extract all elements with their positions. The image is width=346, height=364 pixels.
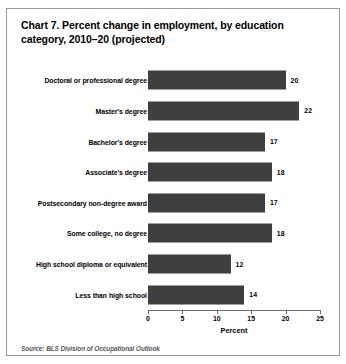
bar-value-label: 17 (270, 138, 278, 145)
plot-area: Doctoral or professional degree20Master'… (7, 65, 341, 310)
x-axis-tick-label: 0 (146, 315, 150, 322)
bar-track: 14 (148, 285, 320, 304)
x-axis-title: Percent (148, 326, 320, 335)
x-axis-tick (217, 310, 218, 314)
bar-track: 18 (148, 224, 320, 243)
bar[interactable] (148, 132, 265, 151)
x-axis-tick-label: 15 (247, 315, 255, 322)
bar-value-label: 22 (304, 107, 312, 114)
bar[interactable] (148, 224, 272, 243)
bar-row: Associate's degree18 (7, 157, 341, 188)
bar-track: 12 (148, 255, 320, 274)
x-axis-tick-label: 20 (282, 315, 290, 322)
x-axis-tick (286, 310, 287, 314)
bar[interactable] (148, 163, 272, 182)
category-label: Master's degree (96, 107, 147, 114)
category-label: High school diploma or equivalent (36, 261, 147, 268)
bar-value-label: 18 (277, 169, 285, 176)
bar-track: 18 (148, 163, 320, 182)
x-axis-tick (320, 310, 321, 314)
bar-value-label: 20 (291, 77, 299, 84)
category-label: Doctoral or professional degree (44, 77, 147, 84)
bar-track: 17 (148, 132, 320, 151)
x-axis-tick-label: 25 (316, 315, 324, 322)
bar-track: 22 (148, 101, 320, 120)
x-axis-tick (182, 310, 183, 314)
bar-row: Less than high school14 (7, 279, 341, 310)
source-note: Source: BLS Division of Occupational Out… (21, 345, 160, 352)
bar[interactable] (148, 71, 286, 90)
x-axis-line (148, 310, 320, 311)
bar-row: Doctoral or professional degree20 (7, 65, 341, 96)
x-axis-tick (251, 310, 252, 314)
category-label: Bachelor's degree (88, 138, 147, 145)
bar-value-label: 14 (249, 291, 257, 298)
category-label: Some college, no degree (67, 230, 147, 237)
category-label: Associate's degree (85, 169, 147, 176)
bar-row: Bachelor's degree17 (7, 126, 341, 157)
bar-value-label: 18 (277, 230, 285, 237)
chart-title: Chart 7. Percent change in employment, b… (21, 19, 321, 46)
bar-track: 17 (148, 193, 320, 212)
bar[interactable] (148, 101, 299, 120)
x-axis-tick-label: 10 (213, 315, 221, 322)
bar-value-label: 12 (236, 261, 244, 268)
bar-row: Some college, no degree18 (7, 218, 341, 249)
x-axis-tick (148, 310, 149, 314)
bar[interactable] (148, 255, 231, 274)
bar-row: High school diploma or equivalent12 (7, 249, 341, 280)
category-label: Less than high school (75, 291, 147, 298)
bar-track: 20 (148, 71, 320, 90)
bar-value-label: 17 (270, 199, 278, 206)
bar[interactable] (148, 285, 244, 304)
bar-row: Postsecondary non-degree award17 (7, 188, 341, 219)
chart-panel: Chart 7. Percent change in employment, b… (6, 8, 340, 356)
category-label: Postsecondary non-degree award (38, 199, 147, 206)
x-axis-tick-label: 5 (180, 315, 184, 322)
bar-row: Master's degree22 (7, 96, 341, 127)
bar[interactable] (148, 193, 265, 212)
